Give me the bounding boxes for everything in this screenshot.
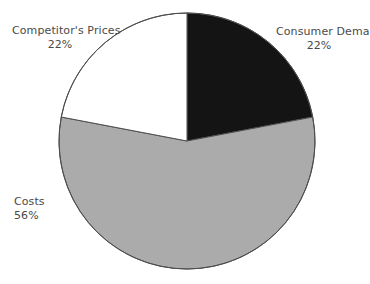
pie-label-costs: Costs 56% [14, 195, 74, 222]
pie-label-competitors-prices: Competitor's Prices 22% [12, 24, 108, 51]
pie-label-costs-value: 56% [14, 209, 74, 223]
pie-label-costs-name: Costs [14, 195, 74, 209]
pie-chart-figure: Competitor's Prices 22% Consumer Demand … [0, 0, 370, 284]
pie-label-competitors-prices-value: 22% [12, 38, 108, 52]
pie-label-consumer-demand-value: 22% [276, 39, 362, 53]
pie-label-consumer-demand: Consumer Demand 22% [276, 25, 362, 52]
pie-label-competitors-prices-name: Competitor's Prices [12, 24, 108, 38]
pie-label-consumer-demand-name: Consumer Demand [276, 25, 362, 39]
